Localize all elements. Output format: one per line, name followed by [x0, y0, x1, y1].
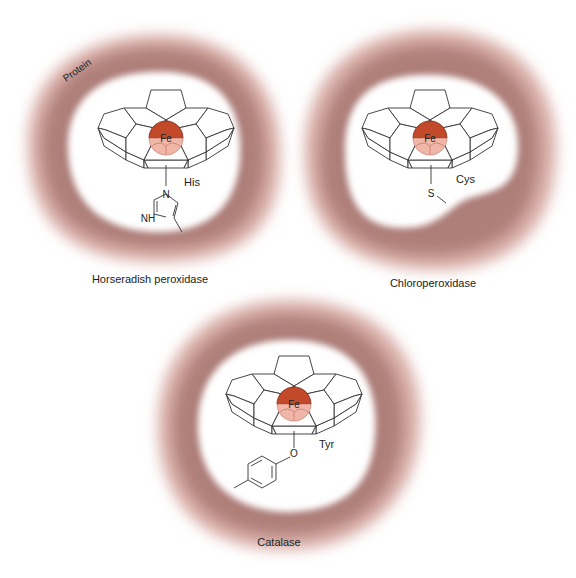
enzyme-name: Catalase	[257, 536, 300, 548]
enzyme-name: Chloroperoxidase	[390, 277, 476, 289]
ligand-atom: O	[290, 448, 298, 459]
panel-horseradish-peroxidase: Protein Fe N NH His Horseradish peroxida…	[28, 35, 280, 285]
ligand-label: Cys	[456, 173, 475, 185]
panel-catalase: Fe O Tyr Catalase	[158, 300, 420, 550]
iron-label: Fe	[424, 133, 436, 144]
iron-label: Fe	[288, 399, 300, 410]
ligand-atom: N	[162, 189, 169, 200]
iron-label: Fe	[160, 133, 172, 144]
enzyme-name: Horseradish peroxidase	[92, 273, 208, 285]
panel-chloroperoxidase: Fe S Cys Chloroperoxidase	[305, 30, 557, 289]
heme-enzymes-diagram: Protein Fe N NH His Horseradish peroxida…	[0, 0, 576, 578]
ligand-label: Tyr	[319, 438, 335, 450]
ligand-atom: NH	[141, 213, 155, 224]
ligand-atom: S	[428, 188, 435, 199]
ligand-label: His	[184, 176, 200, 188]
